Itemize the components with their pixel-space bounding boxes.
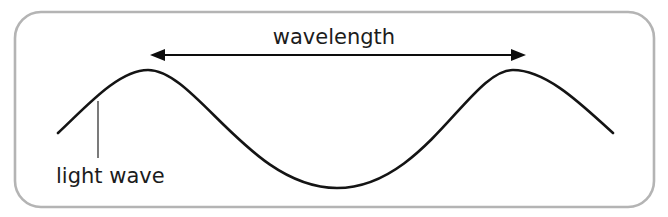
wavelength-label: wavelength (273, 25, 395, 49)
wavelength-diagram: wavelength light wave (0, 0, 668, 217)
light-wave-label: light wave (56, 164, 165, 188)
figure-root: wavelength light wave (0, 0, 668, 217)
